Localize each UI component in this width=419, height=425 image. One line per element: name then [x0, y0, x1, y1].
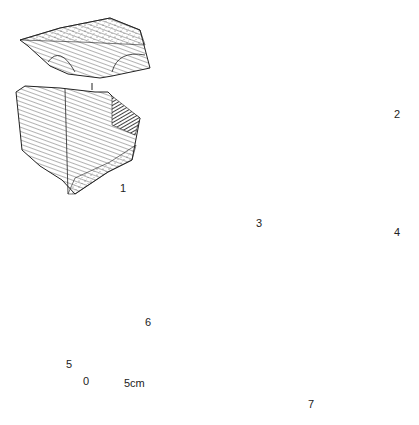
artifact-label-7: 7 [308, 398, 314, 410]
artifact-label-6: 6 [145, 316, 151, 328]
artifact-1-platform-view [20, 18, 150, 78]
artifact-label-1: 1 [120, 182, 126, 194]
artifact-label-3: 3 [256, 217, 262, 229]
artifact-label-5: 5 [66, 358, 72, 370]
scale-start-label: 0 [83, 375, 89, 387]
scale-end-label: 5cm [124, 377, 145, 389]
artifact-plate [0, 0, 419, 425]
artifact-label-4: 4 [394, 226, 400, 238]
artifact-1-face-view [16, 86, 140, 194]
artifact-label-2: 2 [394, 108, 400, 120]
